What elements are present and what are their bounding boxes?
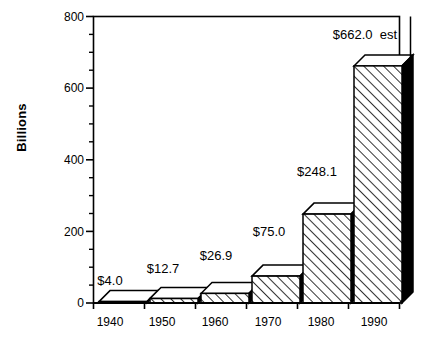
bar-1990 — [354, 55, 413, 303]
bar-chart: Billions 800 600 400 200 0 1940 1950 196… — [0, 0, 428, 349]
chart-canvas — [0, 0, 428, 349]
bar-1970 — [252, 265, 311, 303]
bar-1940 — [99, 291, 158, 303]
bar-1960 — [201, 282, 260, 303]
bar-1950 — [150, 288, 209, 304]
y-axis-major-ticks — [86, 17, 94, 304]
bar-1980 — [303, 203, 362, 303]
